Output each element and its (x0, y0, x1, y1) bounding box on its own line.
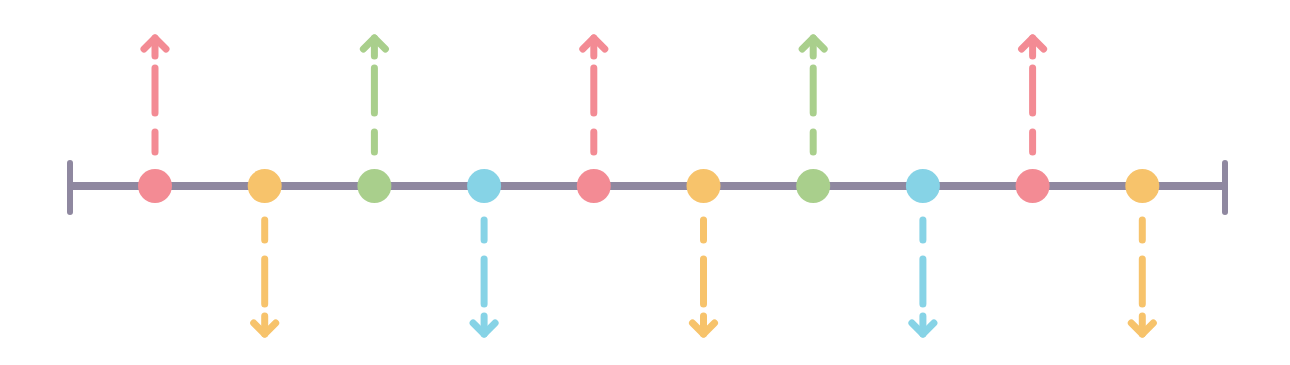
event-marker (577, 169, 611, 203)
timeline-event (467, 169, 501, 334)
timeline-diagram (0, 0, 1290, 365)
timeline-event (687, 169, 721, 334)
timeline-event (1016, 38, 1050, 203)
event-marker (1125, 169, 1159, 203)
event-marker (138, 169, 172, 203)
event-marker (357, 169, 391, 203)
timeline-event (357, 38, 391, 203)
event-marker (687, 169, 721, 203)
timeline-event (577, 38, 611, 203)
event-marker (1016, 169, 1050, 203)
timeline-event (138, 38, 172, 203)
event-marker (906, 169, 940, 203)
timeline-event (906, 169, 940, 334)
event-marker (248, 169, 282, 203)
timeline-event (796, 38, 830, 203)
event-marker (796, 169, 830, 203)
timeline-event (1125, 169, 1159, 334)
timeline-event (248, 169, 282, 334)
event-marker (467, 169, 501, 203)
